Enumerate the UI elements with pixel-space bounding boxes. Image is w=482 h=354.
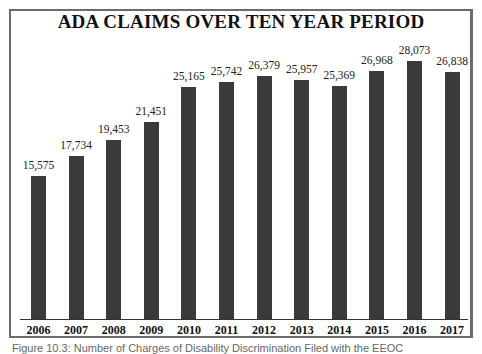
bar-2016 <box>407 61 422 319</box>
bar-2008 <box>106 140 121 319</box>
bar-2015 <box>369 71 384 319</box>
figure-caption: Figure 10.3: Number of Charges of Disabi… <box>12 342 403 354</box>
bar-2009 <box>144 122 159 319</box>
bar-2012 <box>257 76 272 319</box>
value-label-2009: 21,451 <box>121 105 181 117</box>
value-label-2017: 26,838 <box>422 55 482 67</box>
bar-2013 <box>294 80 309 319</box>
value-label-2014: 25,369 <box>309 69 369 81</box>
value-label-2008: 19,453 <box>84 123 144 135</box>
bar-2010 <box>181 87 196 319</box>
bar-2014 <box>332 86 347 319</box>
value-label-2006: 15,575 <box>9 159 69 171</box>
x-axis-line <box>20 319 468 320</box>
value-label-2016: 28,073 <box>385 44 445 56</box>
bar-2007 <box>69 156 84 319</box>
x-tick-label-2017: 2017 <box>427 323 477 338</box>
bar-2011 <box>219 82 234 319</box>
bar-2006 <box>31 176 46 319</box>
bar-2017 <box>445 72 460 319</box>
value-label-2007: 17,734 <box>46 139 106 151</box>
